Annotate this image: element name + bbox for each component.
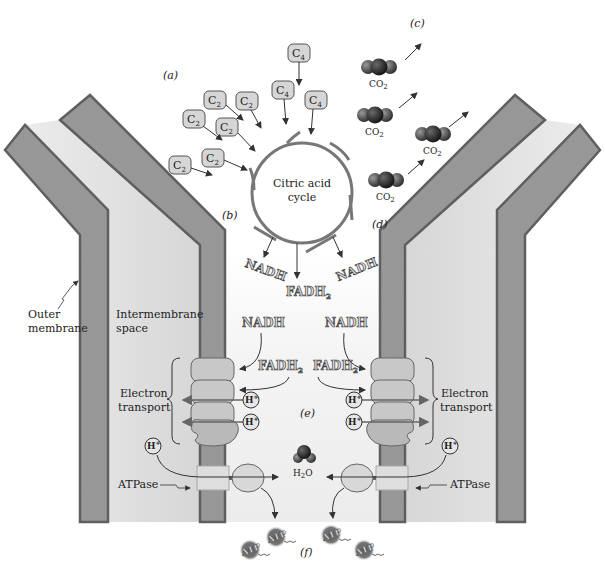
- proton-marker: H+: [346, 414, 362, 430]
- citric-acid-cycle: Citric acid cycle: [250, 132, 352, 252]
- outer-membrane-label-line2: membrane: [28, 322, 88, 335]
- fadh2-input-left: FADH2: [258, 359, 303, 375]
- proton-marker: H+: [243, 414, 259, 430]
- svg-text:CO2: CO2: [376, 192, 395, 204]
- co2-molecule: CO2: [357, 107, 393, 140]
- outer-membrane-label-line1: Outer: [28, 308, 61, 321]
- electron-transport-label-right-line2: transport: [440, 401, 493, 414]
- cycle-label-line1: Citric acid: [273, 177, 331, 190]
- nadh-input-left: NADH: [242, 316, 285, 330]
- mitochondria-oxidative-phosphorylation-diagram: (a) (b) (c) (d) (e) (f) C2 C2 C2 C2 C2 C…: [0, 0, 605, 569]
- atp-molecule: ATP: [265, 526, 296, 548]
- svg-text:CO2: CO2: [423, 146, 442, 158]
- outer-membrane-pointer: [58, 281, 78, 309]
- co2-molecule: CO2: [361, 59, 397, 92]
- substrate-c2: C2: [202, 149, 224, 167]
- substrate-c2: C2: [169, 156, 191, 174]
- panel-label-b: (b): [222, 209, 238, 222]
- electron-transport-complex-left: [191, 358, 238, 446]
- panel-label-d: (d): [372, 218, 388, 231]
- panel-label-f: (f): [300, 546, 313, 559]
- svg-text:CO2: CO2: [369, 79, 388, 91]
- co2-molecule: CO2: [368, 172, 404, 205]
- proton-marker: H+: [243, 392, 259, 408]
- svg-text:CO2: CO2: [365, 127, 384, 139]
- electron-transport-label-left-line2: transport: [118, 401, 171, 414]
- atp-molecule: ATP: [320, 524, 351, 546]
- electron-transport-label-right-line1: Electron: [441, 387, 489, 400]
- substrate-c2: C2: [204, 91, 226, 109]
- substrate-c4: C4: [272, 81, 294, 99]
- electron-transport-label-left-line1: Electron: [120, 387, 168, 400]
- substrate-c2: C2: [183, 110, 205, 128]
- fadh2-label: FADH2: [286, 285, 331, 301]
- substrate-c2: C2: [236, 92, 258, 110]
- nadh-input-right: NADH: [325, 316, 368, 330]
- co2-molecule: CO2: [415, 126, 451, 159]
- cycle-label-line2: cycle: [288, 191, 317, 204]
- proton-marker: H+: [346, 392, 362, 408]
- substrate-c2: C2: [216, 118, 238, 136]
- panel-label-c: (c): [410, 17, 425, 30]
- intermembrane-label-line1: Intermembrane: [116, 308, 203, 321]
- intermembrane-label-line2: space: [116, 322, 148, 335]
- panel-label-a: (a): [163, 69, 178, 82]
- panel-label-e: (e): [300, 407, 315, 420]
- substrate-c4: C4: [305, 91, 327, 109]
- atpase-label-left: ATPase: [117, 478, 158, 491]
- substrate-c4: C4: [288, 44, 310, 62]
- electron-transport-complex-right: [367, 358, 414, 446]
- atp-molecule: ATP: [353, 539, 384, 561]
- fadh2-input-right: FADH2: [313, 359, 358, 375]
- atpase-label-right: ATPase: [449, 478, 490, 491]
- atp-molecule: ATP: [239, 539, 270, 561]
- proton-marker: H+: [442, 438, 458, 454]
- proton-marker: H+: [145, 438, 161, 454]
